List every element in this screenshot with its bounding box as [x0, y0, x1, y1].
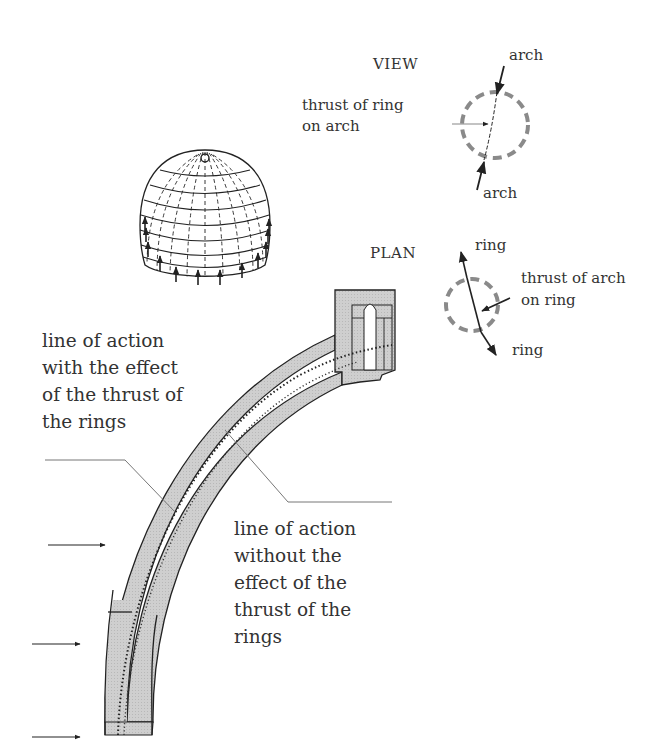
- view-arch-arrow-top: [497, 66, 504, 94]
- view-arch-top-label: arch: [509, 47, 543, 65]
- plan-ring-arrow-bottom: [481, 332, 496, 355]
- label-without-rings-1: line of action: [234, 518, 356, 540]
- view-title: VIEW: [373, 56, 418, 74]
- label-without-rings-3: effect of the: [234, 572, 347, 594]
- view-ring-thrust-label-1: thrust of ring: [302, 97, 404, 115]
- view-dashed-circle: [462, 92, 528, 158]
- plan-ring-bottom-label: ring: [512, 342, 543, 360]
- label-with-rings-3: of the thrust of: [42, 384, 183, 406]
- label-without-rings-2: without the: [234, 545, 342, 567]
- plan-title: PLAN: [370, 245, 416, 263]
- diagram-canvas: VIEW arch arch thrust of ring on arch PL…: [0, 0, 667, 750]
- label-without-rings-4: thrust of the: [234, 599, 351, 621]
- label-with-rings-4: the rings: [42, 411, 126, 433]
- lantern-opening: [364, 304, 376, 370]
- plan-dashed-circle: [446, 279, 498, 331]
- label-with-rings-2: with the effect: [42, 357, 178, 379]
- plan-ring-line: [467, 278, 481, 332]
- plan-ring-top-label: ring: [475, 237, 506, 255]
- label-with-rings-1: line of action: [42, 330, 164, 352]
- view-diagram: [452, 66, 528, 190]
- plan-arch-thrust-label-1: thrust of arch: [521, 270, 626, 288]
- label-without-rings-5: rings: [234, 626, 282, 648]
- plan-arch-thrust-label-2: on ring: [521, 292, 576, 310]
- view-arch-line: [484, 92, 497, 160]
- view-ring-thrust-label-2: on arch: [302, 118, 360, 136]
- view-arch-bottom-label: arch: [483, 185, 517, 203]
- plan-diagram: [446, 252, 510, 355]
- section-base: [105, 722, 153, 735]
- plan-ring-arrow-top: [461, 252, 467, 278]
- leader-with-rings: [45, 460, 175, 512]
